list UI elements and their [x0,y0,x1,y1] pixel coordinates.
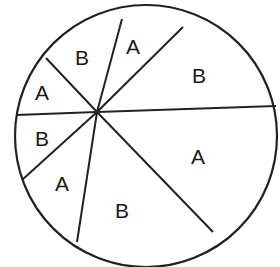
sector-label-b: B [192,64,206,87]
diagram-canvas: BABABAAB [0,0,280,267]
sector-label-b: B [75,46,89,69]
spoke-line [97,19,122,112]
spoke-lines [16,19,276,242]
outer-circle [15,5,277,267]
sector-label-a: A [55,172,69,195]
spoke-line [97,106,276,112]
spoke-line [46,58,97,112]
sector-label-a: A [126,35,140,58]
spoke-line [16,112,97,115]
sector-label-a: A [191,145,205,168]
divided-circle-diagram: BABABAAB [0,0,280,267]
sector-label-a: A [35,81,49,104]
spoke-line [22,112,97,180]
sector-labels: BABABAAB [35,35,206,222]
spoke-line [77,112,97,242]
sector-label-b: B [35,127,49,150]
sector-label-b: B [115,199,129,222]
